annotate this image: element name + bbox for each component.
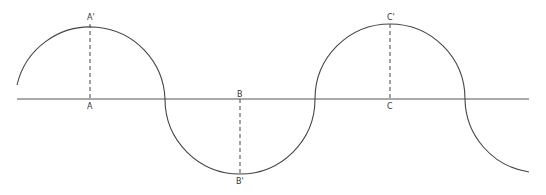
label-a-prime: A' bbox=[87, 13, 95, 22]
wave-diagram: A' A B B' C' C bbox=[0, 0, 546, 195]
label-c: C bbox=[387, 102, 393, 111]
label-a: A bbox=[87, 102, 93, 111]
label-c-prime: C' bbox=[387, 13, 395, 22]
label-b: B bbox=[237, 90, 243, 99]
label-b-prime: B' bbox=[236, 177, 244, 186]
